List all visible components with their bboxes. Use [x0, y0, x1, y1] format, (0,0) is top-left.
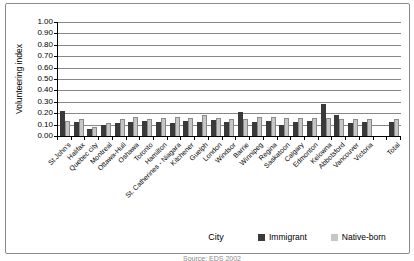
- bar: [271, 117, 276, 136]
- bar-group: [332, 22, 346, 136]
- bar: [106, 123, 111, 136]
- bar-group: [319, 22, 333, 136]
- y-tick-mark: [54, 33, 57, 34]
- bar: [202, 115, 207, 136]
- x-tick-mark: [194, 137, 195, 140]
- bar: [79, 119, 84, 136]
- bar: [312, 118, 317, 136]
- x-tick-mark: [386, 137, 387, 140]
- y-tick-label: 0.70: [21, 51, 53, 61]
- chart-screenshot: Volunteering index City Immigrant Native…: [0, 0, 414, 261]
- x-tick-mark: [98, 137, 99, 140]
- x-tick-mark: [57, 137, 58, 140]
- bar-group: [195, 22, 209, 136]
- bar: [161, 118, 166, 136]
- bar-group: [154, 22, 168, 136]
- bar-group: [264, 22, 278, 136]
- bar-group: [99, 22, 113, 136]
- bar-group: [346, 22, 360, 136]
- bar-group: [209, 22, 223, 136]
- bar: [65, 121, 70, 136]
- bar: [339, 119, 344, 136]
- bar: [120, 119, 125, 136]
- y-tick-label: 0.20: [21, 108, 53, 118]
- bar-group: [140, 22, 154, 136]
- x-tick-mark: [153, 137, 154, 140]
- bar: [216, 118, 221, 136]
- x-tick-mark: [345, 137, 346, 140]
- y-tick-label: 0.90: [21, 28, 53, 38]
- x-tick-mark: [290, 137, 291, 140]
- x-tick-mark: [235, 137, 236, 140]
- x-tick-mark: [359, 137, 360, 140]
- x-tick-mark: [71, 137, 72, 140]
- bar-group: [85, 22, 99, 136]
- legend-item-immigrant: Immigrant: [258, 232, 307, 242]
- immigrant-swatch-icon: [258, 234, 265, 241]
- chart-frame: Volunteering index City Immigrant Native…: [5, 3, 410, 254]
- source-note: Source: EDS 2002: [183, 255, 241, 261]
- x-tick-mark: [126, 137, 127, 140]
- legend-item-native-born: Native-born: [331, 232, 386, 242]
- legend-label-immigrant: Immigrant: [269, 232, 307, 242]
- y-tick-label: 0.50: [21, 74, 53, 84]
- bar-group: [250, 22, 264, 136]
- bar-group: [181, 22, 195, 136]
- legend-label-native-born: Native-born: [342, 232, 386, 242]
- y-tick-mark: [54, 56, 57, 57]
- bar: [367, 119, 372, 136]
- bar: [298, 118, 303, 136]
- y-tick-mark: [54, 90, 57, 91]
- bar: [353, 119, 358, 136]
- bar: [175, 117, 180, 136]
- bar-group: [278, 22, 292, 136]
- y-tick-mark: [54, 113, 57, 114]
- bar-group: [387, 22, 401, 136]
- x-tick-mark: [263, 137, 264, 140]
- bar: [147, 119, 152, 136]
- bar-group: [291, 22, 305, 136]
- x-tick-mark: [277, 137, 278, 140]
- x-tick-mark: [304, 137, 305, 140]
- x-tick-mark: [84, 137, 85, 140]
- y-tick-label: 0.30: [21, 97, 53, 107]
- bar: [133, 117, 138, 136]
- y-tick-mark: [54, 102, 57, 103]
- bar-group: [58, 22, 72, 136]
- native-born-swatch-icon: [331, 234, 338, 241]
- y-tick-label: 0.60: [21, 63, 53, 73]
- y-tick-mark: [54, 79, 57, 80]
- legend: Immigrant Native-born: [258, 232, 386, 242]
- bar-group: [72, 22, 86, 136]
- x-tick-mark: [139, 137, 140, 140]
- y-tick-mark: [54, 45, 57, 46]
- x-tick-mark: [112, 137, 113, 140]
- x-tick-mark: [167, 137, 168, 140]
- bar-group: [168, 22, 182, 136]
- bar: [257, 117, 262, 136]
- x-tick-mark: [222, 137, 223, 140]
- bar-group: [113, 22, 127, 136]
- bar: [394, 119, 399, 136]
- y-tick-label: 0.80: [21, 40, 53, 50]
- bar: [229, 119, 234, 136]
- x-tick-mark: [400, 137, 401, 140]
- y-tick-label: 0.40: [21, 85, 53, 95]
- y-tick-mark: [54, 22, 57, 23]
- plot-area: [57, 22, 401, 137]
- bar: [92, 127, 97, 136]
- bar: [188, 118, 193, 136]
- y-tick-label: 1.00: [21, 17, 53, 27]
- bar-group: [223, 22, 237, 136]
- x-tick-mark: [180, 137, 181, 140]
- y-tick-mark: [54, 125, 57, 126]
- x-tick-mark: [249, 137, 250, 140]
- bar-group: [305, 22, 319, 136]
- bar-group: [360, 22, 374, 136]
- x-tick-mark: [208, 137, 209, 140]
- x-tick-mark: [318, 137, 319, 140]
- bar: [243, 119, 248, 136]
- y-tick-mark: [54, 68, 57, 69]
- bar: [284, 118, 289, 136]
- y-tick-label: 0.00: [21, 131, 53, 141]
